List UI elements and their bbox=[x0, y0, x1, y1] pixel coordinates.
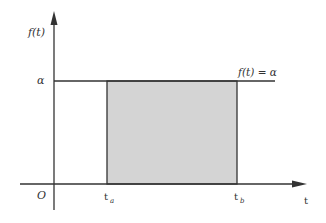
y-axis-arrow-icon bbox=[51, 11, 58, 25]
svg-text:a: a bbox=[110, 197, 114, 205]
x-axis-label: t bbox=[304, 195, 308, 206]
y-axis-label: f(t) bbox=[27, 26, 45, 39]
svg-text:t: t bbox=[234, 191, 238, 202]
pulse-area bbox=[107, 81, 237, 184]
function-label: f(t) = α bbox=[237, 66, 277, 78]
x-axis-arrow-icon bbox=[292, 181, 307, 188]
level-label: α bbox=[37, 74, 45, 87]
origin-label: O bbox=[37, 189, 46, 202]
start-label: t a bbox=[104, 191, 114, 205]
svg-text:b: b bbox=[240, 197, 245, 205]
end-label: t b bbox=[234, 191, 245, 205]
pulse-diagram: f(t) α f(t) = α O t a t b t bbox=[0, 0, 326, 223]
svg-text:t: t bbox=[104, 191, 108, 202]
